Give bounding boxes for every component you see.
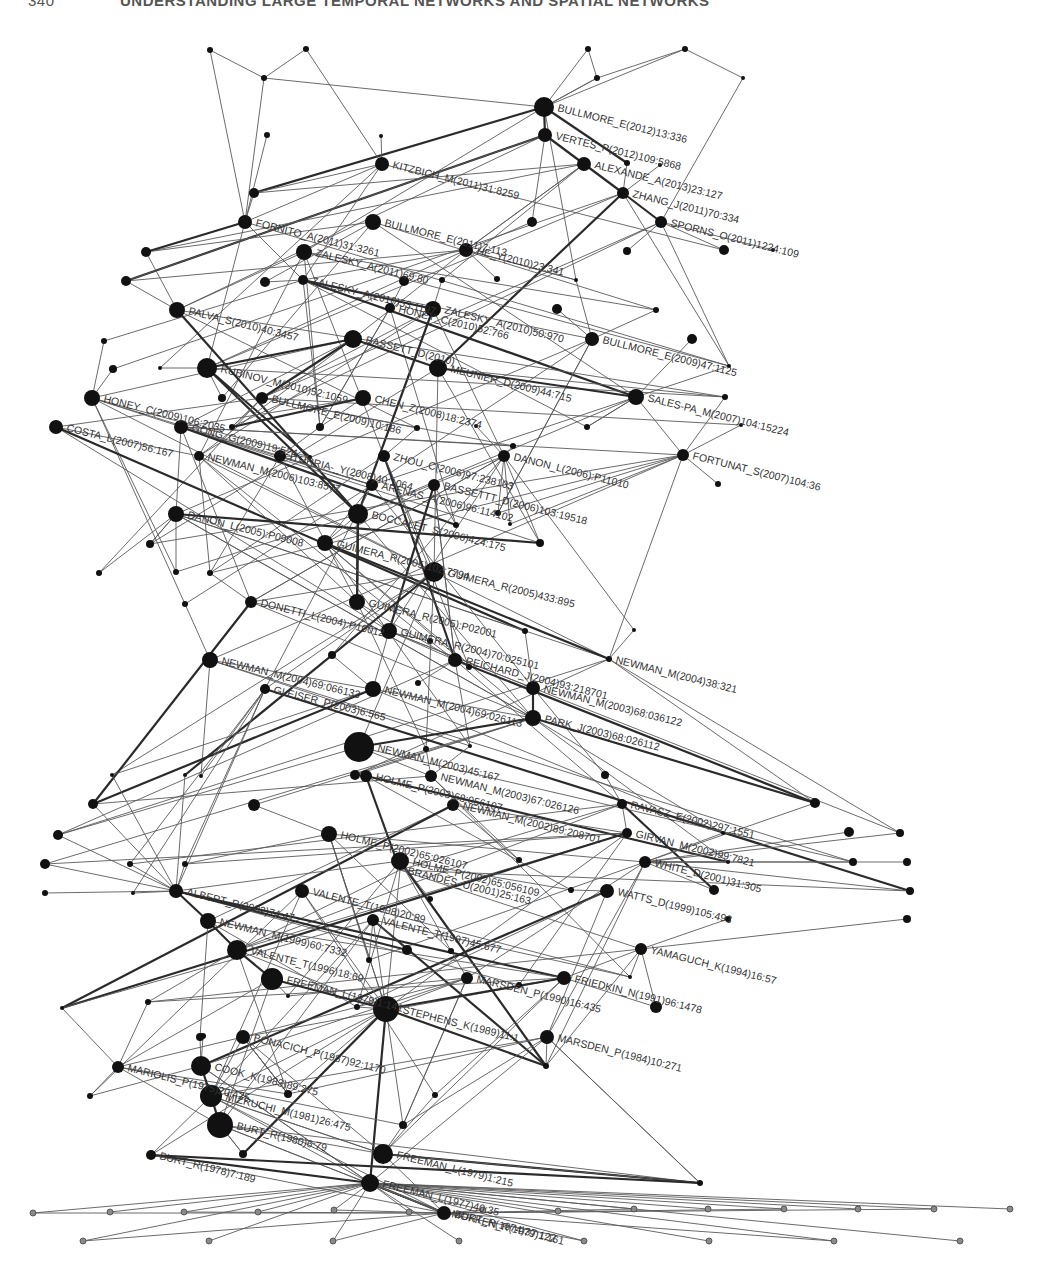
paper-node-mariolis1975: [112, 1061, 124, 1073]
paper-node-valente1998: [295, 884, 309, 898]
citation-edge: [641, 919, 907, 949]
paper-node-chen2008: [355, 390, 371, 406]
citation-edge: [265, 689, 910, 891]
citation-edge: [306, 49, 382, 164]
network-node: [158, 366, 162, 370]
citation-edge: [146, 222, 245, 252]
network-node: [423, 746, 429, 752]
node-label: BULLMORE_E(2009)47:1125: [602, 333, 739, 378]
paper-node-boccalet2006: [348, 504, 368, 524]
paper-node-marsden1984: [540, 1030, 554, 1044]
network-node: [286, 994, 290, 998]
paper-node-bassettt2006: [428, 479, 440, 491]
paper-node-friedkin1991: [557, 971, 571, 985]
paper-node-marsden1990: [461, 972, 473, 984]
citation-edge: [99, 514, 176, 573]
paper-node-vertes2012: [538, 128, 552, 142]
network-node: [494, 276, 500, 282]
citation-edge: [588, 49, 597, 78]
network-node: [354, 1004, 360, 1010]
node-label: DANON_L(2006):P11010: [513, 450, 631, 490]
paper-node-guimera2005b: [317, 535, 333, 551]
network-node: [87, 1093, 93, 1099]
citation-edge: [605, 775, 622, 804]
network-node: [903, 915, 911, 923]
paper-node-reichard2004: [448, 653, 462, 667]
network-node: [229, 424, 235, 430]
network-node: [399, 1121, 407, 1129]
leaf-node: [255, 1209, 261, 1215]
network-node: [682, 46, 688, 52]
paper-node-zalesky2010b: [298, 275, 308, 285]
paper-node-park2003: [525, 710, 541, 726]
node-label: NEWMAN_M(2004)38:321: [615, 653, 739, 695]
network-node: [402, 945, 412, 955]
citation-edge: [185, 604, 210, 660]
network-node: [145, 999, 151, 1005]
network-node: [366, 957, 372, 963]
citation-edge: [181, 427, 456, 525]
network-node: [96, 570, 102, 576]
network-node: [239, 1150, 247, 1158]
paper-node-bullmore2012: [534, 97, 554, 117]
paper-node-zhang2011: [617, 187, 629, 199]
citation-edge: [264, 78, 544, 107]
citation-network-diagram: BULLMORE_E(2012)13:336VERTES_P(2012)109:…: [0, 0, 1037, 1288]
paper-node-honey2009: [84, 390, 100, 406]
citation-edge: [176, 689, 265, 891]
citation-edge: [533, 688, 900, 833]
network-node: [183, 773, 187, 777]
citation-edge: [118, 1002, 148, 1067]
node-layer: [30, 46, 1013, 1244]
leaf-node: [1007, 1206, 1013, 1212]
citation-edge: [146, 164, 584, 252]
network-node: [199, 774, 203, 778]
paper-node-valente1997: [367, 914, 379, 926]
network-node: [715, 481, 721, 487]
paper-node-holme2002: [321, 826, 337, 842]
paper-node-danon2005: [168, 506, 184, 522]
network-node: [896, 829, 904, 837]
citation-edge: [544, 49, 685, 107]
citation-edge: [661, 222, 729, 366]
citation-edge: [130, 804, 622, 864]
network-node: [623, 247, 631, 255]
node-label: MARSDEN_P(1984)10:271: [557, 1031, 684, 1074]
network-node: [101, 338, 107, 344]
paper-node-fornito2011: [238, 215, 252, 229]
network-node: [810, 798, 820, 808]
network-node: [414, 425, 420, 431]
edge-layer: [33, 49, 1010, 1241]
citation-edge: [245, 78, 264, 222]
citation-edge: [92, 398, 185, 604]
network-node: [453, 522, 459, 528]
network-node: [316, 423, 324, 431]
paper-node-donetti2004: [245, 596, 257, 608]
network-node: [131, 891, 135, 895]
leaf-node: [957, 1238, 963, 1244]
paper-node-newman2003: [344, 732, 374, 762]
network-node: [110, 773, 114, 777]
node-label: SALES-PA_M(2007)104:15224: [647, 391, 791, 438]
network-node: [741, 76, 745, 80]
citation-edge: [45, 864, 176, 891]
network-node: [439, 277, 445, 283]
network-node: [697, 1180, 703, 1186]
paper-node-burt1980: [207, 1112, 233, 1138]
network-node: [200, 1033, 206, 1039]
network-node: [60, 1006, 64, 1010]
network-node: [379, 134, 383, 138]
network-node: [218, 394, 226, 402]
citation-edge: [532, 135, 545, 222]
paper-node-albert2002: [169, 884, 183, 898]
network-node: [552, 304, 562, 314]
node-label: KITZBICH_M(2011)31:8259: [392, 158, 521, 201]
leaf-node: [406, 1209, 412, 1215]
paper-node-rubinov2010: [197, 358, 217, 378]
citation-edge: [83, 1183, 370, 1241]
citation-edge: [466, 164, 584, 250]
leaf-node: [931, 1206, 937, 1212]
network-node: [903, 858, 911, 866]
leaf-node: [206, 1238, 212, 1244]
citation-edge: [245, 135, 267, 222]
